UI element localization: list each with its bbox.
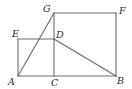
label-F: F bbox=[118, 5, 126, 16]
label-D: D bbox=[55, 29, 64, 40]
segment-DB bbox=[54, 39, 116, 76]
geometry-diagram: G F E D A C B bbox=[0, 0, 132, 89]
label-G: G bbox=[43, 3, 51, 14]
label-A: A bbox=[7, 76, 15, 87]
segment-AG bbox=[18, 13, 54, 76]
label-B: B bbox=[116, 75, 124, 86]
label-E: E bbox=[11, 28, 19, 39]
label-C: C bbox=[51, 77, 59, 88]
